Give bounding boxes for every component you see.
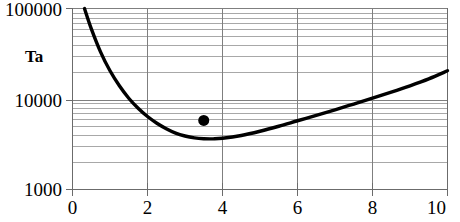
- y-axis-ticks: [66, 9, 72, 190]
- x-tick-label-0: 0: [52, 198, 93, 217]
- data-point-marker: [198, 115, 209, 126]
- x-tick-label-10: 10: [427, 198, 460, 217]
- x-tick-label-2: 2: [127, 198, 168, 217]
- vertical-gridlines: [148, 8, 373, 189]
- x-tick-label-8: 8: [352, 198, 393, 217]
- y-tick-label-10000: 10000: [0, 91, 62, 110]
- y-tick-label-100000: 100000: [0, 0, 62, 19]
- chart-container: Ta 100000 10000 1000 0 2 4 6 8 10: [0, 0, 460, 222]
- x-tick-label-6: 6: [277, 198, 318, 217]
- y-tick-label-1000: 1000: [0, 180, 62, 199]
- chart-plot-area: [0, 0, 460, 222]
- x-tick-label-4: 4: [202, 198, 243, 217]
- y-axis-title: Ta: [25, 48, 43, 65]
- minor-horizontal-gridlines: [72, 14, 447, 163]
